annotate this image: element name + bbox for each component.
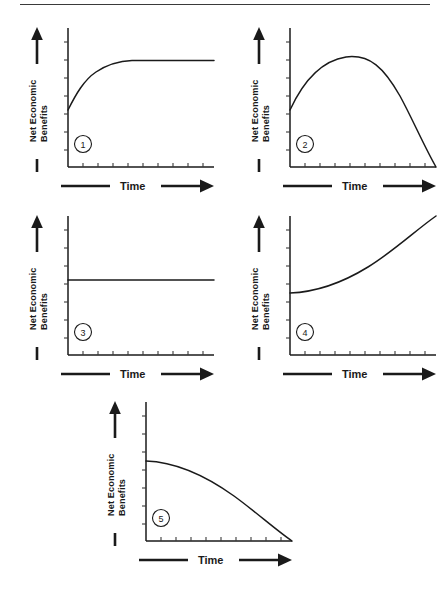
- x-axis-label-group-1: Time: [61, 180, 214, 193]
- x-axis-label-group-3: Time: [61, 368, 214, 381]
- y-axis-label-line1-1: Net Economic: [28, 80, 38, 142]
- panel-number-2: 2: [302, 140, 307, 150]
- data-curve-2: [290, 57, 436, 167]
- panel-number-badge-1: 1: [75, 136, 92, 153]
- chart-panel-3: Net Economic Benefits: [28, 212, 223, 387]
- panel-number-badge-5: 5: [153, 510, 170, 527]
- data-curve-4: [290, 216, 436, 293]
- x-axis-label-5: Time: [198, 554, 223, 566]
- data-curve-1: [68, 61, 214, 111]
- y-axis-arrow-5: [109, 401, 121, 438]
- y-axis-label-line2-4: Benefits: [261, 293, 271, 330]
- x-axis-label-group-5: Time: [139, 554, 292, 567]
- y-axis-label-line1-5: Net Economic: [106, 454, 116, 516]
- panel-number-5: 5: [158, 514, 163, 524]
- y-axis-label-line2-2: Benefits: [261, 105, 271, 142]
- chart-panel-4: Net Economic Benefits: [250, 212, 445, 387]
- y-axis-label-line1-2: Net Economic: [250, 80, 260, 142]
- y-axis-label-line2-1: Benefits: [39, 105, 49, 142]
- x-axis-label-4: Time: [342, 368, 367, 380]
- chart-panel-5: Net Economic Benefits: [106, 398, 301, 573]
- y-axis-label-line2-5: Benefits: [117, 479, 127, 516]
- panel-number-4: 4: [302, 328, 307, 338]
- y-axis-label-line2-3: Benefits: [39, 293, 49, 330]
- y-axis-label-line1-4: Net Economic: [250, 268, 260, 330]
- y-axis-arrow-3: [31, 215, 43, 252]
- panel-number-1: 1: [80, 140, 85, 150]
- figure-page: Net Economic Benefits: [0, 0, 445, 595]
- chart-panel-2: Net Economic Benefits: [250, 24, 445, 199]
- x-axis-label-group-4: Time: [283, 368, 436, 381]
- data-curve-5: [146, 461, 292, 541]
- panel-number-badge-3: 3: [75, 324, 92, 341]
- panel-number-3: 3: [80, 328, 85, 338]
- panel-number-badge-2: 2: [297, 136, 314, 153]
- x-axis-label-3: Time: [120, 368, 145, 380]
- y-axis-arrow-2: [253, 27, 265, 64]
- chart-panel-1: Net Economic Benefits: [28, 24, 223, 199]
- panel-number-badge-4: 4: [297, 324, 314, 341]
- y-axis-arrow-1: [31, 27, 43, 64]
- y-axis-label-line1-3: Net Economic: [28, 268, 38, 330]
- x-axis-label-group-2: Time: [283, 180, 436, 193]
- y-axis-arrow-4: [253, 215, 265, 252]
- x-axis-label-2: Time: [342, 180, 367, 192]
- x-axis-label-1: Time: [120, 180, 145, 192]
- top-divider-rule: [20, 4, 430, 5]
